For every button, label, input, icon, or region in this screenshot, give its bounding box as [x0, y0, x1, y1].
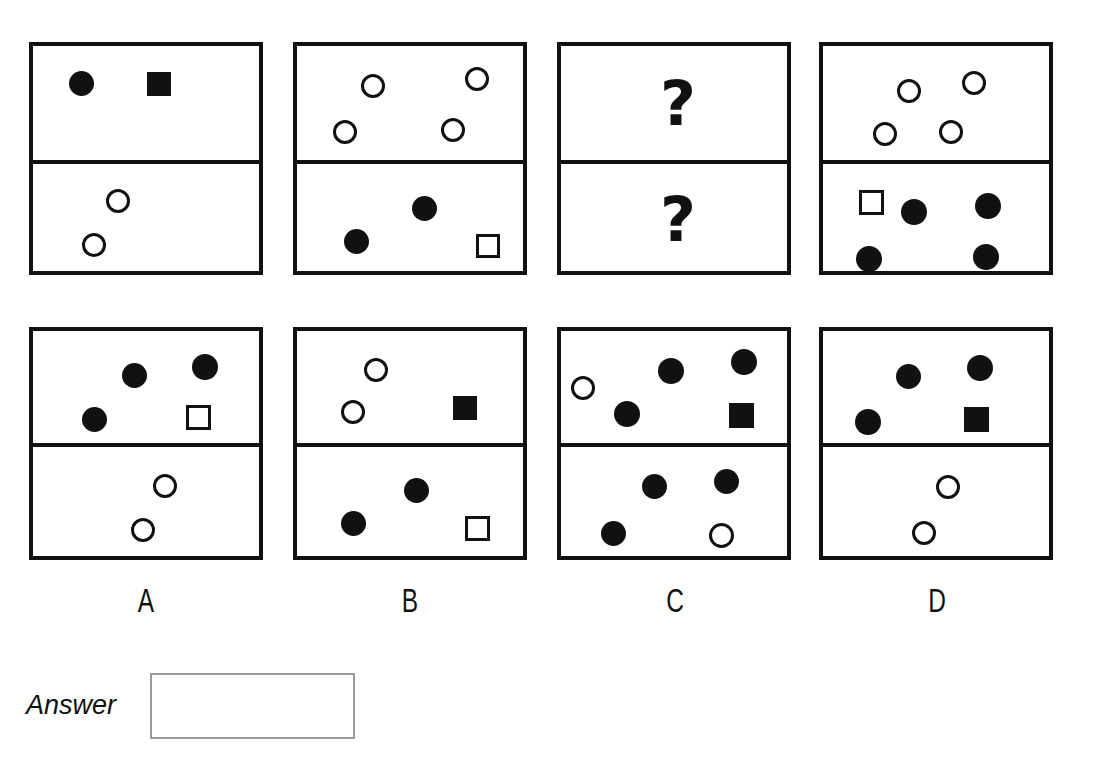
circle-filled-shape — [731, 349, 757, 375]
circle-open-shape — [341, 400, 365, 424]
circle-filled-shape — [122, 363, 147, 388]
option-panel-b[interactable] — [293, 327, 527, 560]
circle-open-shape — [897, 79, 921, 103]
option-letter-d[interactable]: D — [928, 583, 946, 617]
problem-panel-4-top-cell — [823, 46, 1049, 164]
option-panel-c[interactable] — [557, 327, 791, 560]
circle-open-shape — [709, 523, 734, 548]
circle-filled-shape — [344, 229, 369, 254]
problem-panel-2 — [293, 42, 527, 275]
circle-filled-shape — [967, 355, 993, 381]
option-panel-c-bottom-cell — [561, 447, 787, 556]
circle-filled-shape — [412, 196, 437, 221]
problem-panel-1-top-cell — [33, 46, 259, 164]
option-panel-a-bottom-cell — [33, 447, 259, 556]
option-panel-a[interactable] — [29, 327, 263, 560]
circle-open-shape — [153, 474, 177, 498]
problem-panel-3-unknown-bottom-cell: ? — [561, 164, 787, 271]
square-open-shape — [186, 405, 211, 430]
circle-open-shape — [962, 71, 986, 95]
circle-filled-shape — [658, 358, 684, 384]
circle-filled-shape — [404, 478, 429, 503]
option-panel-b-bottom-cell — [297, 447, 523, 556]
problem-panel-3-unknown: ?? — [557, 42, 791, 275]
square-filled-shape — [147, 72, 171, 96]
circle-filled-shape — [192, 354, 218, 380]
circle-open-shape — [131, 518, 155, 542]
circle-filled-shape — [69, 71, 94, 96]
question-mark-icon: ? — [660, 189, 696, 251]
circle-filled-shape — [856, 246, 882, 272]
circle-filled-shape — [855, 409, 881, 435]
circle-open-shape — [571, 376, 595, 400]
problem-panel-1 — [29, 42, 263, 275]
answer-label: Answer — [26, 692, 116, 719]
circle-filled-shape — [642, 474, 667, 499]
question-mark-icon: ? — [660, 73, 696, 135]
circle-filled-shape — [614, 401, 640, 427]
circle-open-shape — [912, 521, 936, 545]
problem-panel-4 — [819, 42, 1053, 275]
circle-filled-shape — [714, 469, 739, 494]
square-open-shape — [476, 234, 500, 258]
problem-panel-2-top-cell — [297, 46, 523, 164]
circle-open-shape — [364, 358, 388, 382]
problem-panel-1-bottom-cell — [33, 164, 259, 271]
circle-filled-shape — [975, 193, 1001, 219]
option-panel-a-top-cell — [33, 331, 259, 447]
circle-open-shape — [936, 475, 960, 499]
circle-filled-shape — [901, 199, 927, 225]
circle-open-shape — [441, 118, 465, 142]
square-open-shape — [859, 190, 884, 215]
option-panel-d[interactable] — [819, 327, 1053, 560]
option-panel-c-top-cell — [561, 331, 787, 447]
square-filled-shape — [964, 407, 989, 432]
circle-filled-shape — [973, 244, 999, 270]
circle-filled-shape — [896, 364, 921, 389]
square-open-shape — [465, 516, 490, 541]
circle-open-shape — [465, 67, 489, 91]
option-panel-d-bottom-cell — [823, 447, 1049, 556]
answer-input-box[interactable] — [150, 673, 355, 739]
circle-open-shape — [333, 120, 357, 144]
circle-open-shape — [873, 122, 897, 146]
problem-panel-4-bottom-cell — [823, 164, 1049, 271]
circle-filled-shape — [341, 511, 366, 536]
option-letter-c[interactable]: C — [666, 583, 684, 617]
circle-filled-shape — [601, 521, 626, 546]
square-filled-shape — [453, 396, 477, 420]
circle-open-shape — [82, 233, 106, 257]
circle-open-shape — [361, 74, 385, 98]
square-filled-shape — [729, 403, 754, 428]
option-panel-d-top-cell — [823, 331, 1049, 447]
circle-open-shape — [939, 120, 963, 144]
circle-filled-shape — [82, 407, 107, 432]
option-letter-a[interactable]: A — [138, 583, 154, 617]
option-panel-b-top-cell — [297, 331, 523, 447]
option-letter-b[interactable]: B — [402, 583, 418, 617]
problem-panel-2-bottom-cell — [297, 164, 523, 271]
puzzle-canvas: ??ABCD — [0, 0, 1096, 776]
problem-panel-3-unknown-top-cell: ? — [561, 46, 787, 164]
circle-open-shape — [106, 189, 130, 213]
